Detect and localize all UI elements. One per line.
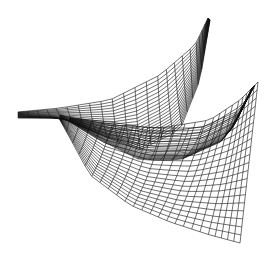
- figure-canvas: [0, 0, 272, 262]
- wireframe-surface-plot: [0, 0, 272, 262]
